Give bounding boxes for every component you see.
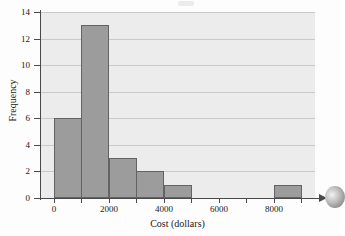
y-tick-label: 6 <box>8 114 30 123</box>
y-tick-label: 10 <box>8 61 30 70</box>
y-tick-10 <box>34 65 40 66</box>
histogram-bar <box>54 118 82 198</box>
y-tick-label: 14 <box>8 8 30 17</box>
y-tick-8 <box>34 92 40 93</box>
x-tick-label: 2000 <box>89 204 129 214</box>
x-axis-title: Cost (dollars) <box>40 218 315 229</box>
x-tick-2000 <box>109 198 110 203</box>
plot-area <box>40 12 315 198</box>
x-tick-1000 <box>81 198 82 203</box>
scan-artifact-right <box>325 186 345 208</box>
x-tick-label: 0 <box>34 204 74 214</box>
x-tick-3000 <box>136 198 137 203</box>
y-tick-6 <box>34 118 40 119</box>
y-tick-label: 2 <box>8 167 30 176</box>
x-tick-0 <box>54 198 55 203</box>
y-tick-label: 8 <box>8 88 30 97</box>
x-tick-label: 8000 <box>254 204 294 214</box>
y-axis-title: Frequency <box>7 61 18 141</box>
x-tick-6000 <box>219 198 220 203</box>
x-tick-4000 <box>164 198 165 203</box>
y-tick-12 <box>34 39 40 40</box>
histogram-bar <box>81 25 109 198</box>
gridline-y-14 <box>40 12 315 13</box>
x-tick-5000 <box>191 198 192 203</box>
x-tick-label: 6000 <box>199 204 239 214</box>
y-tick-2 <box>34 171 40 172</box>
y-axis-line <box>40 10 41 200</box>
histogram-bar <box>274 185 302 198</box>
histogram-bar <box>164 185 192 198</box>
x-tick-8000 <box>274 198 275 203</box>
scan-artifact-top <box>178 1 194 6</box>
x-tick-9000 <box>301 198 302 203</box>
x-tick-label: 4000 <box>144 204 184 214</box>
histogram-bar <box>136 171 164 198</box>
y-tick-label: 0 <box>8 194 30 203</box>
x-tick-7000 <box>246 198 247 203</box>
y-tick-0 <box>34 198 40 199</box>
y-tick-label: 4 <box>8 141 30 150</box>
y-tick-label: 12 <box>8 35 30 44</box>
y-tick-4 <box>34 145 40 146</box>
y-tick-14 <box>34 12 40 13</box>
histogram-bar <box>109 158 137 198</box>
